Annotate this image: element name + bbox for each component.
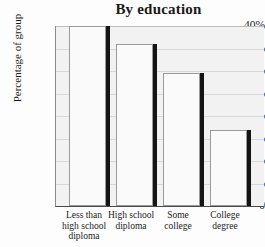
bar-shadow-2: [153, 44, 157, 206]
x-tick-college-degree: College degree: [199, 210, 251, 231]
bar-less-than-high-school-diploma[interactable]: [69, 26, 106, 206]
bar-shadow-4: [247, 130, 251, 206]
y-axis-title: Percentage of group: [11, 0, 23, 133]
bar-group-2: [116, 44, 153, 206]
bar-chart: By education Percentage of group 40% 35%…: [0, 0, 265, 247]
x-tick-some-college: Some college: [152, 210, 204, 231]
x-tick-4-line-1: College: [199, 210, 251, 221]
bar-shadow-3: [200, 73, 204, 206]
bar-high-school-diploma[interactable]: [116, 44, 153, 206]
x-tick-2-line-2: diploma: [105, 221, 157, 232]
bar-group-1: [69, 26, 106, 206]
bar-group-4: [210, 130, 247, 206]
x-tick-less-than-high-school-diploma: Less than high school diploma: [58, 210, 110, 242]
x-tick-1-line-3: diploma: [58, 231, 110, 242]
bar-shadow-1: [106, 26, 110, 206]
x-tick-2-line-1: High school: [105, 210, 157, 221]
x-tick-high-school-diploma: High school diploma: [105, 210, 157, 231]
x-tick-4-line-2: degree: [199, 221, 251, 232]
chart-title: By education: [0, 1, 265, 18]
x-tick-3-line-1: Some: [152, 210, 204, 221]
x-tick-3-line-2: college: [152, 221, 204, 232]
x-tick-1-line-1: Less than: [58, 210, 110, 221]
bar-some-college[interactable]: [163, 73, 200, 206]
x-tick-1-line-2: high school: [58, 221, 110, 232]
bar-college-degree[interactable]: [210, 130, 247, 206]
bar-group-3: [163, 73, 200, 206]
plot-area: [55, 26, 264, 207]
